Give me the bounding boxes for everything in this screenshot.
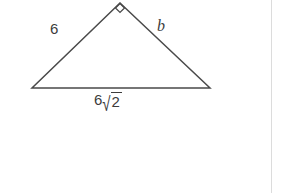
side-label-base: 6 √ 2 [94,92,122,109]
side-label-left-leg: 6 [50,21,58,36]
base-coefficient: 6 [94,92,102,107]
side-label-right-leg: b [157,18,165,34]
radical-sign-icon: √ [102,93,110,116]
radical-expression: √ 2 [102,92,122,109]
triangle-outline [32,3,210,88]
right-angle-marker [116,3,125,12]
diagram-canvas: 6 b 6 √ 2 [0,0,286,193]
blank-content-area [0,115,270,193]
page-right-divider [271,0,272,193]
base-radicand: 2 [111,92,122,109]
